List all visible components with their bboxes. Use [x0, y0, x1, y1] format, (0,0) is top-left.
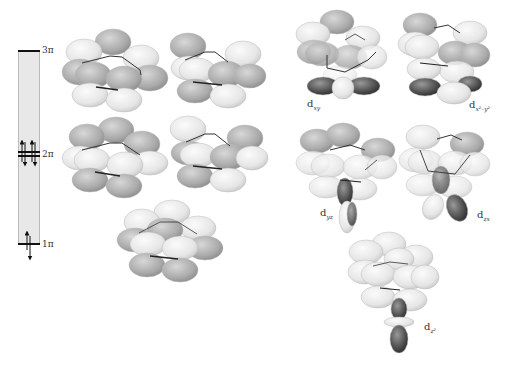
electron-arrows [22, 142, 35, 258]
mo-dx2y2 [398, 13, 490, 104]
label-dz2: dz² [424, 322, 436, 334]
mo-2pi-b [170, 116, 268, 192]
label-dx2y2: dx²–y² [469, 100, 490, 112]
orbital-illustrations [0, 0, 523, 365]
mo-dxy [296, 10, 387, 99]
mo-3pi-b [170, 33, 266, 108]
label-dzx: dzx [477, 210, 490, 222]
mo-dyz [296, 123, 397, 233]
mo-3pi-a [62, 29, 168, 112]
mo-dz2 [348, 232, 439, 353]
mo-2pi-a [62, 117, 168, 198]
label-dyz: dyz [320, 208, 333, 220]
cyclopentadienyl-mo-diagram: 3π 2π 1π [0, 0, 523, 365]
mo-1pi [117, 200, 223, 282]
label-dxy: dxy [307, 99, 320, 111]
